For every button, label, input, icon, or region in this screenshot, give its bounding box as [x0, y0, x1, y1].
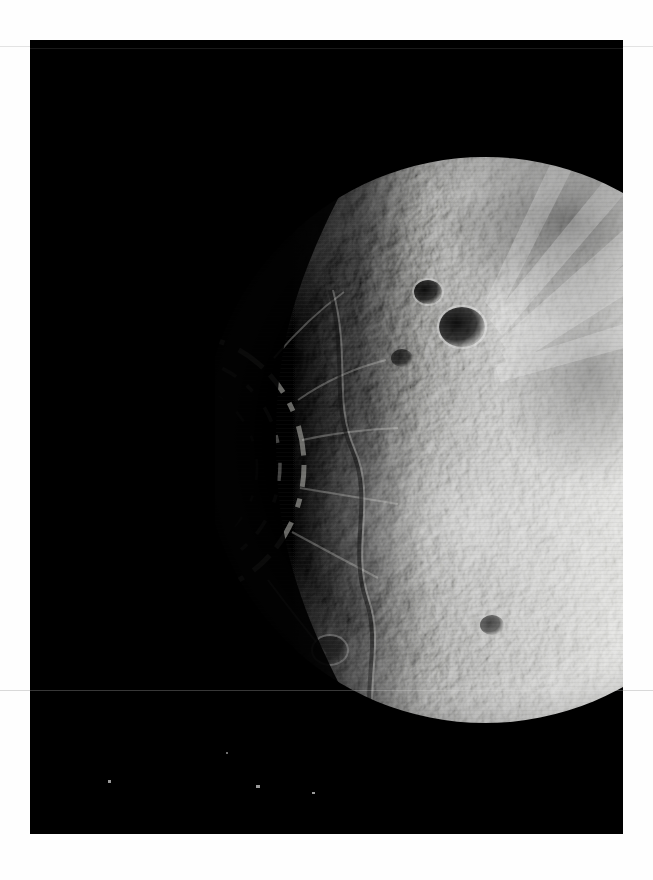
plate-scratch-top: [30, 48, 623, 49]
planetary-surface-photograph: [30, 40, 623, 834]
planet-illustration: [30, 40, 623, 834]
document-page: [0, 0, 653, 880]
